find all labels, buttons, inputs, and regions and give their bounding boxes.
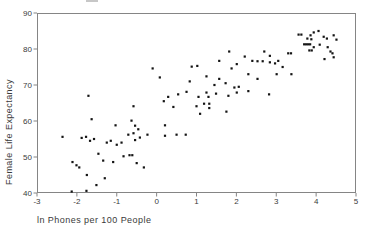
data-point — [164, 124, 166, 126]
data-point — [218, 60, 220, 62]
y-tick-label: 60 — [23, 117, 32, 126]
data-point — [307, 43, 309, 45]
data-point — [172, 106, 174, 108]
x-tick-label: -2 — [73, 197, 81, 206]
data-point — [120, 142, 122, 144]
data-point — [313, 46, 315, 48]
data-point — [274, 62, 276, 64]
data-point — [175, 134, 177, 136]
data-point — [230, 67, 232, 69]
x-tick-label: -1 — [113, 197, 121, 206]
scatter-plot-canvas: -3-2-1012345405060708090 — [0, 0, 366, 232]
data-point — [78, 166, 80, 168]
data-point — [311, 49, 313, 51]
data-point — [225, 82, 227, 84]
data-point — [127, 134, 129, 136]
data-point — [136, 162, 138, 164]
data-point — [300, 34, 302, 36]
data-point — [251, 60, 253, 62]
data-point — [236, 91, 238, 93]
plot-frame — [38, 14, 356, 193]
data-point — [313, 31, 315, 33]
data-point — [197, 96, 199, 98]
data-point — [189, 80, 191, 82]
data-point — [146, 134, 148, 136]
x-tick-label: 4 — [314, 197, 319, 206]
x-tick-label: 1 — [194, 197, 199, 206]
data-point — [227, 95, 229, 97]
data-point — [236, 63, 238, 65]
data-point — [195, 105, 197, 107]
data-point — [205, 75, 207, 77]
data-point — [132, 132, 134, 134]
data-point — [81, 137, 83, 139]
data-point — [167, 96, 169, 98]
data-point — [309, 34, 311, 36]
y-tick-label: 90 — [23, 9, 32, 18]
data-point — [163, 100, 165, 102]
data-point — [208, 103, 210, 105]
data-point — [323, 58, 325, 60]
data-point — [89, 140, 91, 142]
y-tick-label: 70 — [23, 81, 32, 90]
data-point — [326, 37, 328, 39]
data-point — [306, 37, 308, 39]
data-point — [308, 49, 310, 51]
data-point — [305, 43, 307, 45]
data-point — [75, 164, 77, 166]
data-point — [290, 52, 292, 54]
data-point — [319, 44, 321, 46]
y-axis-title: Female Life Expectancy — [4, 67, 14, 197]
data-point — [309, 43, 311, 45]
data-point — [130, 120, 132, 122]
data-point — [95, 184, 97, 186]
data-point — [71, 161, 73, 163]
data-point — [269, 61, 271, 63]
data-point — [323, 36, 325, 38]
data-point — [333, 34, 335, 36]
data-point — [110, 140, 112, 142]
data-point — [282, 66, 284, 68]
data-point — [247, 73, 249, 75]
data-point — [263, 50, 265, 52]
data-point — [225, 111, 227, 113]
data-point — [104, 177, 106, 179]
data-point — [310, 38, 312, 40]
data-point — [131, 154, 133, 156]
data-point — [290, 73, 292, 75]
data-point — [143, 166, 145, 168]
data-point — [61, 136, 63, 138]
y-tick-label: 80 — [23, 45, 32, 54]
data-point — [238, 86, 240, 88]
data-point — [268, 93, 270, 95]
data-point — [91, 118, 93, 120]
data-point — [287, 52, 289, 54]
scatter-plot-window: -3-2-1012345405060708090 Female Life Exp… — [0, 0, 366, 232]
x-tick-label: 3 — [274, 197, 279, 206]
data-point — [196, 65, 198, 67]
data-point — [317, 30, 319, 32]
data-point — [213, 84, 215, 86]
data-point — [134, 125, 136, 127]
data-point — [277, 60, 279, 62]
data-point — [93, 138, 95, 140]
x-tick-label: 2 — [234, 197, 239, 206]
data-point — [114, 124, 116, 126]
data-point — [116, 144, 118, 146]
data-point — [177, 93, 179, 95]
data-point — [191, 66, 193, 68]
data-point — [139, 136, 141, 138]
data-point — [205, 91, 207, 93]
data-point — [106, 142, 108, 144]
data-point — [262, 60, 264, 62]
data-point — [152, 67, 154, 69]
y-tick-label: 50 — [23, 153, 32, 162]
data-point — [207, 96, 209, 98]
data-point — [199, 113, 201, 115]
data-point — [159, 76, 161, 78]
data-point — [327, 46, 329, 48]
data-point — [297, 34, 299, 36]
data-point — [128, 154, 130, 156]
data-point — [331, 52, 333, 54]
data-point — [185, 134, 187, 136]
